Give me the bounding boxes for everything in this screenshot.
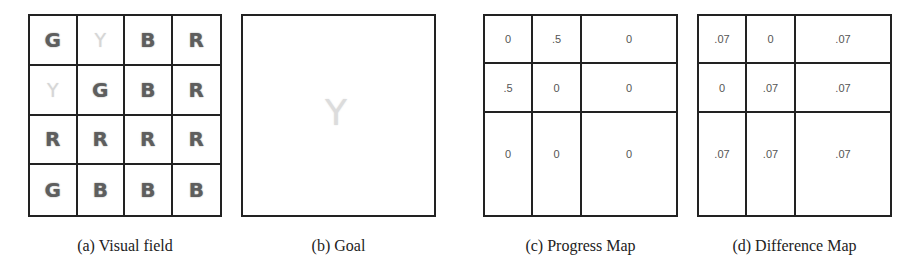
difference-cell-r0-c0: .07 xyxy=(699,16,747,64)
goal-panel: Y xyxy=(241,14,436,217)
progress-cell-r0-c2: 0 xyxy=(582,16,676,64)
difference-cell-r0-c2: .07 xyxy=(796,16,890,64)
goal-glyph: Y xyxy=(325,92,347,133)
vf-cell-r0-c1: Y xyxy=(78,16,126,66)
vf-cell-r2-c1: R xyxy=(78,116,126,166)
vf-cell-r1-c3: R xyxy=(173,66,221,116)
vf-cell-r3-c2: B xyxy=(125,165,173,215)
progress-cell-r1-c0: .5 xyxy=(485,64,533,113)
progress-cell-r2-c2: 0 xyxy=(582,113,676,215)
difference-cell-r1-c1: .07 xyxy=(747,64,796,113)
difference-map-caption: (d) Difference Map xyxy=(697,237,892,255)
difference-cell-r1-c2: .07 xyxy=(796,64,890,113)
vf-cell-r3-c0: G xyxy=(30,165,78,215)
difference-cell-r2-c2: .07 xyxy=(796,113,890,215)
progress-cell-r0-c1: .5 xyxy=(533,16,582,64)
vf-cell-r0-c3: R xyxy=(173,16,221,66)
progress-cell-r0-c0: 0 xyxy=(485,16,533,64)
difference-map-grid: .07 0 .07 0 .07 .07 .07 .07 .07 xyxy=(697,14,892,217)
vf-cell-r3-c1: B xyxy=(78,165,126,215)
vf-cell-r3-c3: B xyxy=(173,165,221,215)
vf-cell-r1-c1: G xyxy=(78,66,126,116)
progress-cell-r1-c1: 0 xyxy=(533,64,582,113)
visual-field-caption: (a) Visual field xyxy=(28,237,222,255)
vf-cell-r2-c0: R xyxy=(30,116,78,166)
vf-cell-r2-c3: R xyxy=(173,116,221,166)
progress-cell-r1-c2: 0 xyxy=(582,64,676,113)
difference-cell-r2-c0: .07 xyxy=(699,113,747,215)
progress-cell-r2-c1: 0 xyxy=(533,113,582,215)
goal-caption: (b) Goal xyxy=(241,237,436,255)
vf-cell-r1-c2: B xyxy=(125,66,173,116)
vf-cell-r1-c0: Y xyxy=(30,66,78,116)
vf-cell-r2-c2: R xyxy=(125,116,173,166)
visual-field-grid: G Y B R Y G B R R R R R G B B B xyxy=(28,14,222,217)
difference-cell-r1-c0: 0 xyxy=(699,64,747,113)
progress-map-grid: 0 .5 0 .5 0 0 0 0 0 xyxy=(483,14,678,217)
progress-cell-r2-c0: 0 xyxy=(485,113,533,215)
vf-cell-r0-c2: B xyxy=(125,16,173,66)
vf-cell-r0-c0: G xyxy=(30,16,78,66)
progress-map-caption: (c) Progress Map xyxy=(483,237,678,255)
difference-cell-r2-c1: .07 xyxy=(747,113,796,215)
difference-cell-r0-c1: 0 xyxy=(747,16,796,64)
